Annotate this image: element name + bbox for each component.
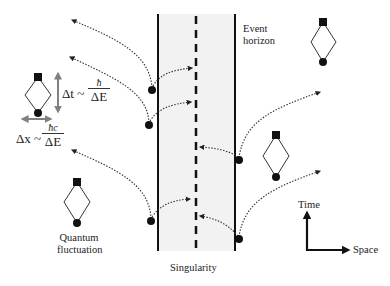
space-axis-label: Space bbox=[353, 244, 378, 256]
fluctuation-loop-top-left bbox=[25, 73, 51, 117]
uncertainty-arrows bbox=[27, 78, 58, 119]
delta-x-denominator: ΔE bbox=[42, 134, 64, 149]
escape-path-4 bbox=[239, 92, 320, 158]
delta-t-equation-fraction: ħ ΔE bbox=[88, 77, 110, 104]
delta-t-denominator: ΔE bbox=[88, 89, 110, 104]
singularity-label: Singularity bbox=[170, 262, 217, 274]
escape-path-3 bbox=[72, 150, 151, 219]
quantum-fluctuation-label: Quantum fluctuation bbox=[57, 232, 101, 256]
particle-dot bbox=[235, 156, 243, 164]
hawking-radiation-diagram: Event horizon Singularity Quantum fluctu… bbox=[0, 0, 390, 286]
black-hole-region bbox=[158, 14, 235, 251]
particle-dot bbox=[148, 86, 156, 94]
delta-x-numerator: ħc bbox=[42, 122, 64, 134]
particle-dot bbox=[147, 217, 155, 225]
particle-dot bbox=[235, 235, 243, 243]
delta-t-numerator: ħ bbox=[88, 77, 110, 89]
delta-t-equation-lhs: Δt ~ bbox=[62, 86, 84, 102]
spacetime-axes bbox=[306, 214, 347, 251]
event-horizon-label: Event horizon bbox=[243, 23, 275, 47]
time-axis-label: Time bbox=[298, 199, 320, 211]
particle-dot bbox=[145, 121, 153, 129]
fluctuation-loop-middle-right bbox=[263, 131, 289, 181]
delta-x-equation-fraction: ħc ΔE bbox=[42, 122, 64, 149]
fluctuation-loop-bottom-left bbox=[64, 178, 90, 227]
delta-x-equation-lhs: Δx ~ bbox=[16, 131, 41, 147]
fluctuation-loop-top-right bbox=[311, 18, 336, 66]
